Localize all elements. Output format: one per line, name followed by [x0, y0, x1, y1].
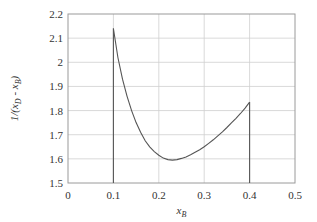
y-tick-labels: 1.51.61.71.81.922.12.2	[49, 8, 63, 189]
y-tick-label: 1.5	[49, 177, 63, 189]
vertical-lines	[113, 28, 249, 183]
x-tick-label: 0.1	[107, 189, 121, 201]
y-tick-label: 1.9	[49, 80, 63, 92]
plot-frame	[68, 14, 295, 183]
y-tick-label: 2.2	[49, 8, 63, 20]
chart: 00.10.20.30.40.5 1.51.61.71.81.922.12.2 …	[0, 0, 317, 222]
x-tick-label: 0.4	[243, 189, 257, 201]
x-axis-label: xB	[176, 204, 187, 219]
x-tick-label: 0	[65, 189, 71, 201]
grid	[68, 14, 295, 183]
y-axis-label: 1/(xD - xB)	[8, 75, 23, 121]
y-tick-label: 1.8	[49, 105, 63, 117]
series-line	[113, 29, 249, 161]
y-tick-label: 1.6	[49, 153, 63, 165]
x-tick-labels: 00.10.20.30.40.5	[65, 189, 302, 201]
y-tick-label: 2	[58, 56, 64, 68]
x-tick-label: 0.3	[197, 189, 211, 201]
y-tick-label: 2.1	[49, 32, 63, 44]
x-tick-label: 0.5	[288, 189, 302, 201]
x-tick-label: 0.2	[152, 189, 166, 201]
y-tick-label: 1.7	[49, 129, 63, 141]
